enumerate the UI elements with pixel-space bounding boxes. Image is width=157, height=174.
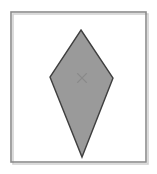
geometry-figure — [0, 0, 157, 174]
kite-polygon — [50, 30, 113, 157]
figure-canvas — [0, 0, 157, 174]
